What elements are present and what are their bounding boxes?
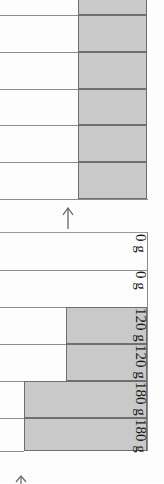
bar-upper-5 <box>78 125 147 162</box>
value-label-row-6: 180 g <box>133 419 148 453</box>
bar-upper-3 <box>78 52 147 89</box>
bar-upper-4 <box>78 89 147 125</box>
gridline-lower-1 <box>0 270 148 271</box>
value-label-row-3: 120 g <box>133 308 148 342</box>
value-label-row-5: 180 g <box>133 382 148 416</box>
value-label-row-4: 120 g <box>133 345 148 379</box>
lower-bar-chart: 0 g 0 g 120 g 120 g 180 g 180 g <box>0 232 164 454</box>
value-label-row-2: 0 g <box>133 271 148 290</box>
gridline-upper-4 <box>0 125 78 126</box>
bar-lower-6 <box>24 418 147 451</box>
gridline-upper-3 <box>0 89 78 90</box>
value-label-row-1: 0 g <box>133 234 148 253</box>
gridline-lower-5 <box>0 418 24 419</box>
gridline-upper-5 <box>0 162 78 163</box>
bar-upper-2 <box>78 15 147 52</box>
bar-upper-6 <box>78 162 147 199</box>
up-arrow-icon <box>59 205 77 230</box>
gridline-upper-2 <box>0 52 78 53</box>
gridline-upper-baseline <box>0 199 148 200</box>
gridline-upper-1 <box>0 15 78 16</box>
gridline-lower-baseline <box>0 451 24 452</box>
gridline-lower-3 <box>0 344 66 345</box>
bar-upper-1 <box>78 0 147 15</box>
upper-plot-area <box>0 0 164 205</box>
lower-plot-area: 0 g 0 g 120 g 120 g 180 g 180 g <box>0 232 164 454</box>
up-arrow-small-icon <box>13 472 29 484</box>
bar-lower-5 <box>24 381 147 418</box>
upper-bar-chart <box>0 0 164 205</box>
